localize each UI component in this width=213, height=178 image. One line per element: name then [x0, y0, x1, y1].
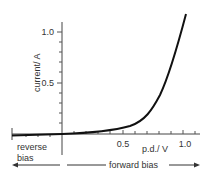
- x-tick-label-05: 0.5: [117, 139, 130, 149]
- reverse-bias-label-line1: reverse: [17, 142, 47, 152]
- x-axis-label: p.d./ V: [142, 144, 168, 154]
- reverse-arrow-head-icon: [12, 163, 18, 168]
- reverse-bias-label-line2: bias: [17, 153, 34, 163]
- y-axis-label: current/ A: [32, 53, 42, 92]
- y-tick-label-05: 0.5: [41, 78, 54, 88]
- y-tick-label-1: 1.0: [41, 27, 54, 37]
- y-ticks: [57, 32, 62, 123]
- x-tick-label-1: 1.0: [179, 139, 192, 149]
- forward-arrow-head-icon: [194, 163, 200, 168]
- forward-bias-label: forward bias: [109, 160, 159, 170]
- diode-iv-chart: 1.0 0.5 current/ A 0.5 1.0 p.d./ V rever…: [0, 0, 213, 178]
